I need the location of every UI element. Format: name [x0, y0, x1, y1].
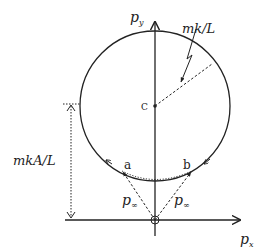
offset-label: mkA/L	[13, 153, 56, 168]
diagram-canvas: C mk/L mkA/L a b p∞ p∞ py px	[0, 0, 268, 252]
vector-b-label: p∞	[174, 192, 190, 210]
point-a-label: a	[124, 158, 131, 172]
radius-label: mk/L	[182, 21, 215, 36]
px-axis-label: px	[240, 231, 254, 249]
point-b-label: b	[183, 158, 191, 172]
radius-line	[155, 64, 212, 106]
center-label: C	[141, 102, 148, 112]
py-axis-label: py	[130, 9, 144, 27]
vector-a-label: p∞	[122, 192, 138, 210]
hodograph-diagram: C mk/L mkA/L a b p∞ p∞ py px	[0, 0, 268, 252]
